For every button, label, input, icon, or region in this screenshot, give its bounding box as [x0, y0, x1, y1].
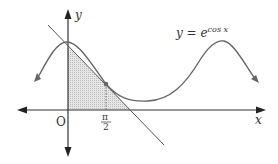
y-axis-label: y	[74, 8, 82, 22]
tick-pi-denominator: 2	[103, 122, 109, 132]
cosine-exponential-diagram: y x O π 2 y = ecos x	[0, 0, 278, 164]
tangent-point	[104, 82, 109, 87]
x-axis-label: x	[255, 113, 262, 127]
curve-label-exponent: cos x	[208, 25, 229, 34]
curve-label: y = ecos x	[175, 25, 229, 40]
x-axis-left-arrow-icon	[17, 107, 27, 114]
origin-label: O	[56, 115, 66, 129]
curve-label-base: y = e	[175, 26, 208, 40]
tick-pi-numerator: π	[102, 112, 108, 122]
curve-right-arrow-icon	[251, 75, 259, 83]
y-axis-down-arrow-icon	[65, 147, 72, 157]
y-axis-up-arrow-icon	[65, 9, 72, 19]
